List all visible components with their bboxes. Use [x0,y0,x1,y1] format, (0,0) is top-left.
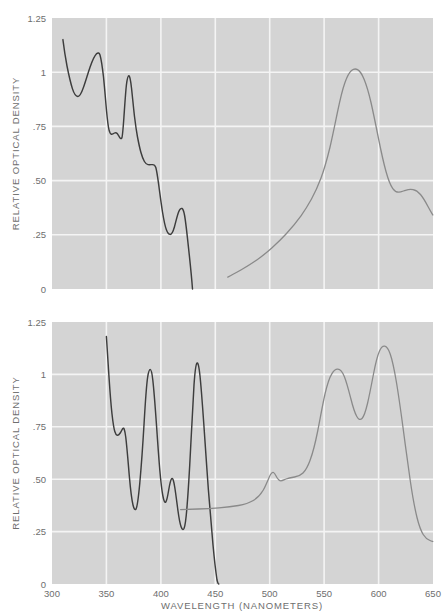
figure-canvas: 1.25 1 .75 .50 .25 0 RELATIVE OPTICAL DE… [0,0,444,612]
bottom-x-tick-labels: 300 350 400 450 500 550 600 650 [44,588,441,599]
xtick-350: 350 [98,588,114,599]
bottom-ytick-075: .75 [33,421,46,432]
top-y-axis-title: RELATIVE OPTICAL DENSITY [10,77,21,231]
bottom-y-tick-labels: 1.25 1 .75 .50 .25 0 [28,317,47,590]
bottom-ytick-025: .25 [33,526,46,537]
top-y-tick-labels: 1.25 1 .75 .50 .25 0 [28,13,47,295]
bottom-panel: 1.25 1 .75 .50 .25 0 300 350 400 450 500… [10,317,441,612]
top-ytick-050: .50 [33,175,46,186]
top-plot-background [52,18,433,289]
top-ytick-075: .75 [33,121,46,132]
top-ytick-025: .25 [33,229,46,240]
xtick-500: 500 [262,588,278,599]
xtick-400: 400 [153,588,169,599]
top-panel: 1.25 1 .75 .50 .25 0 RELATIVE OPTICAL DE… [10,13,433,295]
bottom-ytick-1: 1 [41,369,46,380]
bottom-ytick-050: .50 [33,474,46,485]
bottom-y-axis-title: RELATIVE OPTICAL DENSITY [10,376,21,530]
xtick-650: 650 [425,588,441,599]
top-ytick-0: 0 [41,284,46,295]
xtick-450: 450 [207,588,223,599]
top-ytick-1: 1 [41,67,46,78]
xtick-600: 600 [371,588,387,599]
x-axis-title: WAVELENGTH (NANOMETERS) [161,600,323,611]
spectra-figure: 1.25 1 .75 .50 .25 0 RELATIVE OPTICAL DE… [0,0,444,612]
top-ytick-1-25: 1.25 [28,13,47,24]
xtick-300: 300 [44,588,60,599]
bottom-ytick-1-25: 1.25 [28,317,47,328]
xtick-550: 550 [316,588,332,599]
